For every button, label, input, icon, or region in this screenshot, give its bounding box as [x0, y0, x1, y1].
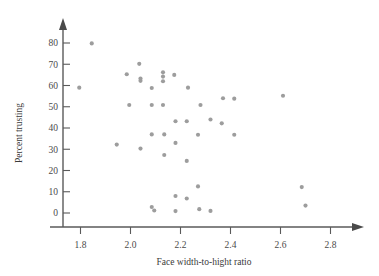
data-point	[152, 208, 156, 212]
x-tick-label: 1.8	[75, 240, 87, 250]
data-point	[161, 79, 165, 83]
data-point	[161, 75, 165, 79]
y-axis-title: Percent trusting	[14, 103, 24, 163]
data-point	[196, 184, 200, 188]
data-point	[150, 86, 154, 90]
data-point	[77, 86, 81, 90]
data-point	[300, 185, 304, 189]
data-point	[150, 205, 154, 209]
data-point	[232, 97, 236, 101]
x-axis	[50, 223, 364, 231]
x-tick-label: 2.0	[125, 240, 137, 250]
data-point	[196, 133, 200, 137]
data-point	[198, 103, 202, 107]
data-point	[281, 94, 285, 98]
data-point	[162, 153, 166, 157]
data-point	[138, 147, 142, 151]
data-point	[303, 203, 307, 207]
data-points-layer	[77, 41, 307, 213]
data-point	[161, 70, 165, 74]
scatter-plot-figure: 01020304050607080 1.82.02.22.42.62.8 Fac…	[0, 0, 379, 276]
y-tick-label: 0	[53, 208, 58, 218]
y-tick-label: 20	[49, 166, 59, 176]
data-point	[197, 207, 201, 211]
data-point	[173, 194, 177, 198]
data-point	[208, 209, 212, 213]
data-point	[172, 73, 176, 77]
data-point	[138, 79, 142, 83]
x-tick-label: 2.6	[275, 240, 287, 250]
y-axis-arrow-icon	[59, 18, 67, 30]
scatter-plot-canvas: 01020304050607080 1.82.02.22.42.62.8 Fac…	[0, 0, 379, 276]
x-axis-arrow-icon	[352, 223, 364, 231]
data-point	[162, 132, 166, 136]
data-point	[161, 103, 165, 107]
x-tick-label: 2.2	[175, 240, 187, 250]
data-point	[150, 103, 154, 107]
x-tick-label: 2.4	[225, 240, 237, 250]
data-point	[137, 62, 141, 66]
x-tick-label: 2.8	[325, 240, 337, 250]
data-point	[173, 119, 177, 123]
data-point	[221, 96, 225, 100]
y-axis-ticks: 01020304050607080	[49, 38, 71, 218]
data-point	[127, 103, 131, 107]
data-point	[173, 209, 177, 213]
data-point	[185, 119, 189, 123]
data-point	[150, 132, 154, 136]
y-tick-label: 10	[49, 187, 59, 197]
data-point	[90, 41, 94, 45]
data-point	[125, 72, 129, 76]
y-tick-label: 50	[49, 102, 59, 112]
data-point	[208, 117, 212, 121]
data-point	[232, 133, 236, 137]
data-point	[185, 159, 189, 163]
y-tick-label: 70	[49, 60, 59, 70]
data-point	[173, 141, 177, 145]
y-axis	[59, 18, 67, 227]
x-axis-title: Face width-to-hight ratio	[157, 257, 252, 267]
y-tick-label: 80	[49, 38, 59, 48]
data-point	[185, 196, 189, 200]
x-axis-ticks: 1.82.02.22.42.62.8	[75, 227, 337, 250]
y-tick-label: 40	[49, 123, 59, 133]
y-tick-label: 30	[49, 145, 59, 155]
data-point	[115, 143, 119, 147]
y-tick-label: 60	[49, 81, 59, 91]
data-point	[220, 121, 224, 125]
data-point	[186, 86, 190, 90]
